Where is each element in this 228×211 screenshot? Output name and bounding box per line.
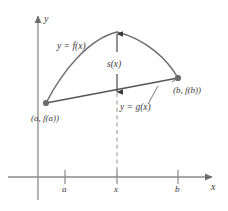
- x-axis-label: x: [210, 181, 216, 192]
- figure-container: y x a x b y = f(x) y = g(x) s(x) (a, f(a…: [0, 0, 228, 211]
- tick-label-x: x: [113, 184, 118, 194]
- y-axis-label: y: [43, 13, 49, 24]
- point-marker-a: [43, 100, 49, 106]
- curve-function-label: y = f(x): [56, 41, 86, 52]
- secant-line-g: [46, 78, 178, 103]
- diagram-canvas: y x a x b y = f(x) y = g(x) s(x) (a, f(a…: [0, 0, 228, 211]
- point-marker-b: [175, 75, 181, 81]
- right-point-label: (b, f(b)): [173, 85, 201, 95]
- tick-label-b: b: [175, 184, 180, 194]
- secant-function-label: y = g(x): [119, 102, 151, 113]
- left-point-label: (a, f(a)): [31, 113, 59, 123]
- tick-label-a: a: [62, 184, 67, 194]
- gap-measure-label: s(x): [107, 59, 121, 70]
